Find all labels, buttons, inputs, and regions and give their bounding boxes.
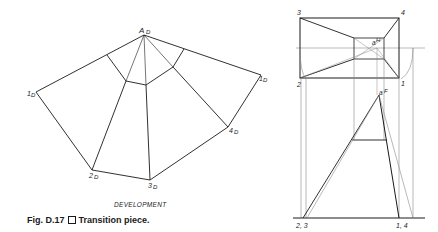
label-base-1-4: 1, 4 xyxy=(396,222,408,229)
development-drawing xyxy=(36,35,261,180)
development-labels: A D 1 D 2 D 3 D 4 D 1 D xyxy=(27,26,268,190)
drawing: A D 1 D 2 D 3 D 4 D 1 D xyxy=(0,0,438,232)
label-3d-sub: D xyxy=(153,184,158,190)
label-corner-4: 4 xyxy=(401,9,405,16)
label-apex-af: a xyxy=(379,89,383,96)
caption-number: Fig. D.17 xyxy=(27,215,65,225)
label-2d-sub: D xyxy=(94,174,99,180)
development-outline xyxy=(36,75,261,180)
label-apex-sub: D xyxy=(146,29,151,35)
top-view-labels: 3 4 2 1 a H xyxy=(296,9,405,88)
transition-piece-figure: A D 1 D 2 D 3 D 4 D 1 D xyxy=(0,0,438,232)
caption-text: Transition piece. xyxy=(79,215,150,225)
label-corner-3: 3 xyxy=(297,9,301,16)
label-corner-1: 1 xyxy=(401,80,405,87)
top-view xyxy=(296,18,425,79)
development-title: DEVELOPMENT xyxy=(114,201,166,208)
label-1d-left-sub: D xyxy=(31,92,36,98)
label-center-ah-sub: H xyxy=(376,37,381,43)
label-apex-a: A xyxy=(138,26,144,35)
label-4d-sub: D xyxy=(234,129,239,135)
label-4d: 4 xyxy=(229,127,233,134)
label-corner-2: 2 xyxy=(296,81,301,88)
label-3d: 3 xyxy=(148,182,152,189)
label-2d: 2 xyxy=(88,172,93,179)
label-base-2-3: 2, 3 xyxy=(295,222,308,229)
label-1d-right-sub: D xyxy=(263,77,268,83)
square-bullet-icon xyxy=(68,216,76,224)
front-view-labels: a F 2, 3 1, 4 xyxy=(295,88,408,229)
figure-caption: Fig. D.17Transition piece. xyxy=(27,215,150,225)
label-apex-af-sub: F xyxy=(384,88,388,94)
